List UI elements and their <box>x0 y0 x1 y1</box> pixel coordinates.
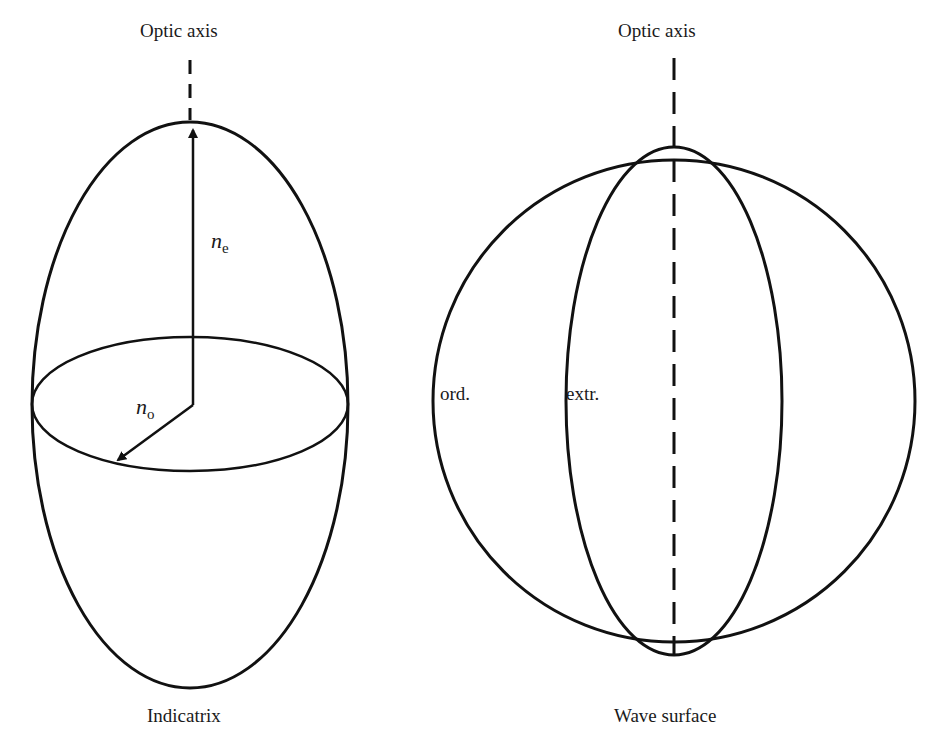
indicatrix-caption: Indicatrix <box>147 705 221 727</box>
extr-label: extr. <box>566 383 599 405</box>
ne-subscript: e <box>222 240 229 256</box>
no-subscript: o <box>147 406 155 422</box>
wave-surface-caption: Wave surface <box>614 705 716 727</box>
ord-label: ord. <box>440 383 470 405</box>
no-symbol: n <box>136 394 147 419</box>
no-arrow <box>118 405 193 460</box>
no-label: no <box>136 394 155 420</box>
diagram-canvas <box>0 0 934 748</box>
optic-axis-label-left: Optic axis <box>140 20 218 42</box>
ne-label: ne <box>211 228 229 254</box>
ne-symbol: n <box>211 228 222 253</box>
indicatrix-diagram <box>32 60 348 688</box>
optic-axis-label-right: Optic axis <box>618 20 696 42</box>
equatorial-ellipse <box>32 337 348 471</box>
indicatrix-ellipsoid <box>32 122 348 688</box>
wave-surface-diagram <box>433 58 915 655</box>
